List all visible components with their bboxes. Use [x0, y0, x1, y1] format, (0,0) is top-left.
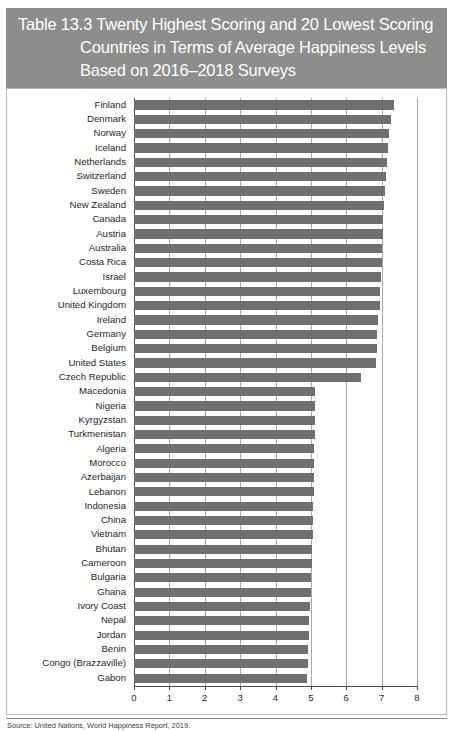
x-tick-label-6: 6 — [344, 692, 349, 703]
category-label: Morocco — [89, 457, 126, 469]
bar — [134, 602, 310, 611]
bar-row: Ireland — [134, 313, 417, 327]
bar-row: Gabon — [134, 671, 417, 685]
bar — [134, 215, 383, 224]
bar-chart-plot-area: 012345678 FinlandDenmarkNorwayIcelandNet… — [134, 98, 417, 686]
category-label-container: United Kingdom — [4, 299, 130, 313]
category-label-container: Belgium — [4, 342, 130, 356]
bar — [134, 244, 382, 253]
bar — [134, 545, 312, 554]
x-tick-0 — [134, 686, 135, 690]
bar-row: Turkmenistan — [134, 428, 417, 442]
bar — [134, 487, 314, 496]
bar-row: Congo (Brazzaville) — [134, 657, 417, 671]
category-label-container: New Zealand — [4, 198, 130, 212]
bar-row: Finland — [134, 98, 417, 112]
bar-row: Algeria — [134, 442, 417, 456]
x-tick-label-7: 7 — [379, 692, 384, 703]
bar — [134, 387, 315, 396]
category-label: Lebanon — [89, 486, 126, 498]
bar — [134, 129, 389, 138]
bar-row: Vietnam — [134, 528, 417, 542]
category-label-container: Germany — [4, 327, 130, 341]
category-label: Sweden — [91, 185, 126, 197]
bar-row: United Kingdom — [134, 299, 417, 313]
category-label-container: Nigeria — [4, 399, 130, 413]
bar-row: Belgium — [134, 342, 417, 356]
bar-row: Macedonia — [134, 385, 417, 399]
category-label: Bulgaria — [91, 571, 126, 583]
category-label-container: Switzerland — [4, 170, 130, 184]
category-label-container: Algeria — [4, 442, 130, 456]
bar-row: Germany — [134, 327, 417, 341]
category-label-container: Vietnam — [4, 528, 130, 542]
category-label: China — [101, 514, 126, 526]
category-label-container: Macedonia — [4, 385, 130, 399]
category-label: Israel — [103, 271, 126, 283]
category-label-container: China — [4, 514, 130, 528]
category-label-container: Sweden — [4, 184, 130, 198]
category-label-container: Congo (Brazzaville) — [4, 657, 130, 671]
bar-row: Sweden — [134, 184, 417, 198]
category-label: Austria — [96, 228, 126, 240]
bar — [134, 287, 380, 296]
bar-row: Ghana — [134, 585, 417, 599]
x-tick-1 — [169, 686, 170, 690]
bar — [134, 358, 376, 367]
category-label: Iceland — [95, 142, 126, 154]
bar-row: Benin — [134, 643, 417, 657]
x-tick-2 — [205, 686, 206, 690]
category-label-container: Azerbaijan — [4, 471, 130, 485]
category-label-container: Ivory Coast — [4, 600, 130, 614]
bar-row: New Zealand — [134, 198, 417, 212]
category-label: Turkmenistan — [68, 428, 126, 440]
bar-row: Czech Republic — [134, 370, 417, 384]
table-title-band: Table 13.3 Twenty Highest Scoring and 20… — [6, 8, 447, 88]
category-label-container: Denmark — [4, 112, 130, 126]
bar-row: Indonesia — [134, 499, 417, 513]
bar — [134, 674, 307, 683]
category-label: Nepal — [101, 614, 126, 626]
category-label: Ghana — [97, 586, 126, 598]
table-title: Table 13.3 Twenty Highest Scoring and 20… — [18, 13, 441, 82]
bar — [134, 645, 308, 654]
bar — [134, 659, 308, 668]
category-label: Indonesia — [84, 500, 126, 512]
footnote-divider — [6, 718, 447, 719]
bar — [134, 344, 377, 353]
bar-row: Switzerland — [134, 170, 417, 184]
category-label: Finland — [95, 99, 126, 111]
gridline-8 — [417, 98, 418, 686]
category-label-container: Bulgaria — [4, 571, 130, 585]
bar — [134, 258, 382, 267]
bar — [134, 115, 391, 124]
category-label-container: United States — [4, 356, 130, 370]
bar-row: Morocco — [134, 456, 417, 470]
table-figure: Table 13.3 Twenty Highest Scoring and 20… — [0, 0, 453, 731]
bar — [134, 401, 315, 410]
category-label-container: Morocco — [4, 456, 130, 470]
category-label-container: Gabon — [4, 671, 130, 685]
bar — [134, 502, 313, 511]
x-tick-label-8: 8 — [414, 692, 419, 703]
bar-row: Jordan — [134, 628, 417, 642]
category-label: Vietnam — [91, 528, 126, 540]
bar — [134, 444, 314, 453]
category-label-container: Ireland — [4, 313, 130, 327]
bar — [134, 143, 388, 152]
category-label-container: Bhutan — [4, 542, 130, 556]
category-label: Macedonia — [79, 385, 126, 397]
category-label: Algeria — [96, 443, 126, 455]
bar — [134, 473, 314, 482]
category-label: Gabon — [97, 672, 126, 684]
x-tick-label-0: 0 — [131, 692, 136, 703]
bar — [134, 315, 378, 324]
bar-row: Nepal — [134, 614, 417, 628]
category-label-container: Netherlands — [4, 155, 130, 169]
category-label: Bhutan — [96, 543, 126, 555]
x-tick-label-2: 2 — [202, 692, 207, 703]
category-label: Luxembourg — [73, 285, 126, 297]
category-label-container: Lebanon — [4, 485, 130, 499]
bar — [134, 573, 311, 582]
bar — [134, 186, 385, 195]
